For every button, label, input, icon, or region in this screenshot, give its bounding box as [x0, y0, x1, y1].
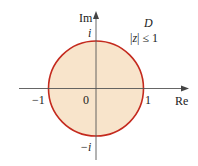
- real-axis-arrow-icon: [181, 86, 189, 92]
- complex-plane-diagram: Im Re i −i −1 0 1 D |z| ≤ 1: [0, 0, 198, 166]
- tick-origin: 0: [83, 93, 89, 107]
- tick-real-pos: 1: [145, 93, 151, 107]
- tick-imag-pos: i: [88, 26, 91, 40]
- imag-axis-arrow-icon: [93, 11, 99, 19]
- tick-imag-neg: −i: [80, 140, 91, 154]
- region-condition: |z| ≤ 1: [130, 31, 158, 45]
- tick-real-neg: −1: [32, 93, 45, 107]
- region-label: D: [143, 16, 153, 30]
- real-axis-label: Re: [175, 94, 188, 108]
- imag-axis-label: Im: [79, 11, 93, 25]
